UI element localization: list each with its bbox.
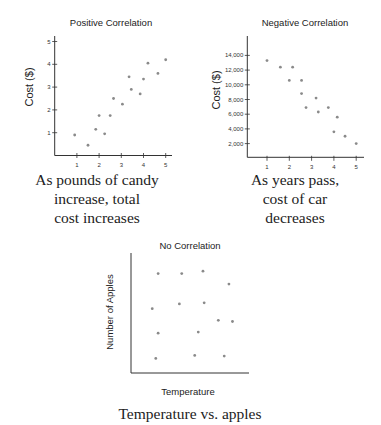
data-point	[147, 62, 150, 65]
caption-line: decreases	[225, 208, 365, 227]
data-point	[336, 116, 339, 119]
data-point	[180, 272, 183, 275]
y-tick-label: 14,000	[225, 52, 244, 58]
data-point	[157, 332, 160, 335]
data-point	[193, 354, 196, 357]
y-tick-label: 2	[47, 107, 51, 113]
data-point	[157, 272, 160, 275]
y-tick-label: 12,000	[225, 67, 244, 73]
data-points	[151, 270, 234, 360]
x-tick-label: 1	[75, 162, 79, 168]
data-point	[98, 114, 101, 117]
chart-title: Negative Correlation	[262, 17, 349, 28]
data-point	[202, 270, 205, 273]
data-point	[154, 357, 157, 360]
data-point	[142, 78, 145, 81]
data-point	[128, 75, 131, 78]
data-point	[217, 319, 220, 322]
y-tick-label: 2,000	[228, 141, 244, 147]
caption-line: increase, total	[17, 189, 177, 208]
data-point	[317, 111, 320, 114]
data-point	[139, 93, 142, 96]
data-point	[300, 92, 303, 95]
data-point	[121, 103, 124, 106]
y-ticks: 2,0004,0006,0008,00010,00012,00014,000	[225, 52, 250, 146]
data-point	[231, 320, 234, 323]
data-points	[266, 59, 358, 145]
caption-line: As pounds of candy	[17, 170, 177, 189]
data-point	[333, 130, 336, 133]
data-point	[151, 307, 154, 310]
y-tick-label: 10,000	[225, 82, 244, 88]
negative-correlation-chart: Negative Correlation Cost ($) 2,0004,000…	[210, 17, 364, 170]
data-point	[87, 144, 90, 147]
no-correlation-chart: No Correlation Number of Apples Temperat…	[104, 240, 249, 397]
data-point	[279, 66, 282, 69]
caption-line: As years pass,	[225, 170, 365, 189]
data-point	[288, 79, 291, 82]
data-point	[305, 106, 308, 109]
x-ticks: 12345	[265, 156, 358, 171]
axes	[247, 36, 364, 157]
y-axis-label: Cost ($)	[210, 70, 222, 109]
chart-title: Positive Correlation	[70, 17, 152, 28]
x-tick-label: 2	[97, 162, 101, 168]
y-tick-label: 6,000	[228, 111, 244, 117]
caption-negative: As years pass, cost of car decreases	[225, 170, 365, 227]
data-point	[327, 106, 330, 109]
data-point	[203, 301, 206, 304]
data-point	[73, 134, 76, 137]
data-point	[315, 97, 318, 100]
caption-none: Temperature vs. apples	[90, 404, 290, 423]
y-axis-label: Cost ($)	[23, 67, 35, 106]
data-point	[223, 355, 226, 358]
data-point	[94, 128, 97, 131]
data-point	[112, 97, 115, 100]
x-axis-label: Temperature	[161, 386, 214, 397]
data-point	[291, 66, 294, 69]
y-ticks: 12345	[47, 39, 57, 136]
data-point	[164, 58, 167, 61]
y-tick-label: 1	[47, 130, 51, 136]
data-point	[157, 72, 160, 75]
data-point	[178, 303, 181, 306]
chart-title: No Correlation	[159, 240, 220, 251]
y-tick-label: 8,000	[228, 97, 244, 103]
x-tick-label: 3	[120, 162, 124, 168]
data-point	[103, 132, 106, 135]
data-point	[266, 59, 269, 62]
caption-line: cost increases	[17, 208, 177, 227]
data-point	[355, 142, 358, 145]
data-point	[109, 114, 112, 117]
caption-line: Temperature vs. apples	[90, 404, 290, 423]
data-point	[228, 283, 231, 286]
y-tick-label: 3	[47, 84, 51, 90]
positive-correlation-chart: Positive Correlation Cost ($) 12345 1234…	[23, 17, 172, 168]
caption-line: cost of car	[225, 189, 365, 208]
data-point	[344, 135, 347, 138]
caption-positive: As pounds of candy increase, total cost …	[17, 170, 177, 227]
x-tick-label: 4	[142, 162, 146, 168]
y-tick-label: 4,000	[228, 126, 244, 132]
y-axis-label: Number of Apples	[104, 274, 115, 350]
axes	[131, 253, 249, 373]
axes	[55, 36, 172, 156]
y-tick-label: 4	[47, 61, 51, 67]
y-tick-label: 5	[47, 39, 51, 45]
data-point	[130, 88, 133, 91]
data-points	[73, 58, 167, 146]
data-point	[197, 331, 200, 334]
data-point	[300, 79, 303, 82]
x-tick-label: 5	[164, 162, 168, 168]
